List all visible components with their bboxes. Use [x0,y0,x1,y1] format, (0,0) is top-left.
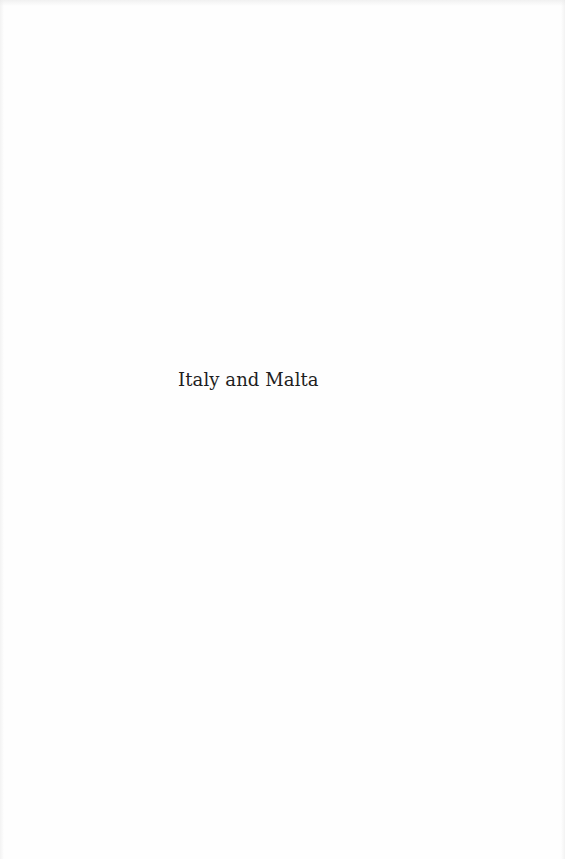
scan-edge-right [561,0,565,859]
book-page: Italy and Malta [0,0,565,859]
scan-edge-top [0,0,565,6]
scan-edge-left [0,0,4,859]
half-title: Italy and Malta [178,371,319,389]
